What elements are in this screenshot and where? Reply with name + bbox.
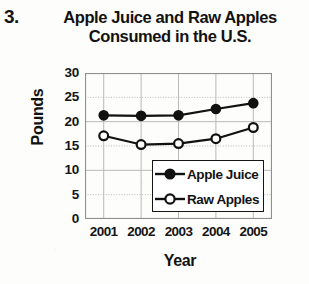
y-axis-tick-label: 10 [49, 162, 79, 177]
data-point [99, 111, 108, 120]
chart-legend: Apple Juice Raw Apples [152, 160, 264, 212]
data-point [174, 111, 183, 120]
x-axis-tick-label: 2004 [195, 224, 237, 239]
data-point [212, 134, 221, 143]
y-axis-tick-label: 20 [49, 114, 79, 129]
data-point [99, 131, 108, 140]
chart-title-line-1: Apple Juice and Raw Apples [63, 8, 277, 26]
legend-label-apple-juice: Apple Juice [187, 167, 258, 182]
legend-label-raw-apples: Raw Apples [187, 192, 259, 207]
legend-item-apple-juice: Apple Juice [153, 161, 265, 187]
x-axis-tick-label: 2002 [120, 224, 162, 239]
data-point [249, 99, 258, 108]
data-point [174, 139, 183, 148]
chart-title: Apple Juice and Raw Apples Consumed in t… [44, 8, 296, 46]
y-axis-label: Pounds [29, 72, 47, 162]
chart-figure: 3. Apple Juice and Raw Apples Consumed i… [0, 0, 309, 284]
legend-marker-open-circle-icon [153, 188, 187, 210]
x-axis-tick-label: 2003 [158, 224, 200, 239]
y-axis-tick-label: 5 [49, 187, 79, 202]
x-axis-tick-label: 2005 [232, 224, 274, 239]
y-axis-tick-label: 0 [49, 211, 79, 226]
question-number: 3. [4, 6, 19, 28]
legend-item-raw-apples: Raw Apples [153, 186, 265, 212]
y-axis-tick-label: 25 [49, 89, 79, 104]
y-axis-tick-label: 15 [49, 138, 79, 153]
x-axis-label: Year [85, 252, 275, 270]
data-point [249, 123, 258, 132]
data-point [137, 111, 146, 120]
data-point [137, 140, 146, 149]
legend-marker-filled-circle-icon [153, 163, 187, 185]
data-point [212, 105, 221, 114]
x-axis-tick-label: 2001 [83, 224, 125, 239]
chart-title-line-2: Consumed in the U.S. [44, 27, 296, 46]
y-axis-tick-label: 30 [49, 65, 79, 80]
